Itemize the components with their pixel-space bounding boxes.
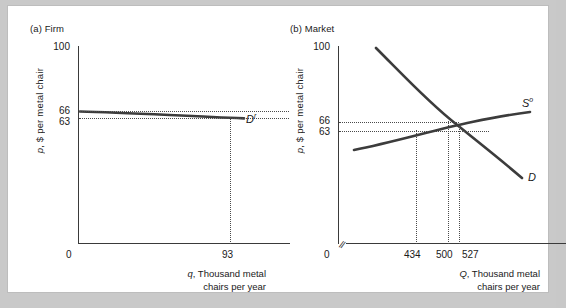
panel-market-curve-label-S-superscript: o [529, 96, 533, 103]
panel-firm-guide-p66 [79, 111, 289, 112]
panel-firm-x-axis-title: qq, Thousand metal, Thousand metal chair… [108, 268, 266, 293]
panel-firm-curve-label-Dr: Dr [246, 112, 256, 125]
panel-market-title: (b) Market [290, 23, 334, 34]
panel-firm-curve-label-D-superscript: r [254, 112, 256, 119]
panel-firm-x-axis-title-line1: qq, Thousand metal, Thousand metal [108, 268, 266, 281]
figure-frame: (a) Firm p, $ per metal chair 100 66 63 [8, 6, 548, 292]
panel-market-ytick-100: 100 [302, 41, 330, 52]
panel-firm: (a) Firm p, $ per metal chair 100 66 63 [8, 6, 284, 292]
panel-firm-x-axis-title-line2: chairs per year [108, 281, 266, 294]
panel-market-xtick-500: 500 [436, 249, 453, 260]
panel-firm-title: (a) Firm [30, 23, 64, 34]
panel-firm-xtick-93: 93 [222, 249, 233, 260]
panel-firm-guide-p63 [79, 118, 289, 119]
panel-firm-ytick-63: 63 [42, 116, 70, 127]
panel-firm-ytick-100: 100 [42, 41, 70, 52]
panel-market-curve-label-S: So [522, 96, 533, 109]
panel-firm-guide-q93 [230, 117, 231, 244]
panel-market-ytick-66: 66 [302, 115, 330, 126]
panel-market: (b) Market p, $ per metal chair 100 66 6… [266, 6, 548, 292]
panel-firm-ytick-66: 66 [42, 105, 70, 116]
panel-market-plot-area: // So D [338, 46, 540, 244]
panel-market-ytick-63: 63 [302, 126, 330, 137]
panel-firm-residual-demand-curve [78, 46, 264, 244]
panel-firm-origin-label: 0 [66, 249, 72, 260]
panel-market-xtick-527: 527 [462, 249, 479, 260]
panel-market-supply-curve [338, 46, 554, 244]
panel-market-y-axis-label: p, $ per metal chair [294, 68, 305, 153]
panel-market-x-axis-title: Q, Thousand metal chairs per year [376, 268, 540, 293]
panel-market-xtick-434: 434 [404, 249, 421, 260]
panel-market-curve-label-D: D [528, 171, 536, 183]
panel-firm-plot-area: Dr [78, 46, 264, 244]
panel-firm-x-axis [78, 243, 290, 244]
panel-firm-y-axis [78, 46, 79, 244]
panel-market-origin-label: 0 [324, 249, 330, 260]
panel-market-x-axis-title-line1: Q, Thousand metal [376, 268, 540, 281]
panel-firm-curve-label-D-text: D [246, 113, 254, 125]
panel-market-x-axis-title-line2: chairs per year [376, 281, 540, 294]
